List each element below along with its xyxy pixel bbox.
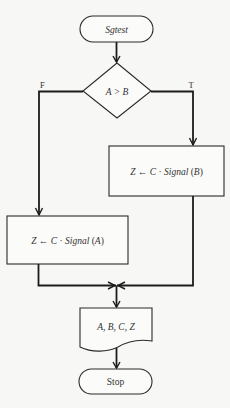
edge-merge-output — [113, 286, 120, 308]
true-branch-label: T — [188, 80, 194, 90]
edge-output-stop — [113, 348, 120, 368]
process-true-label: Z ← C · Signal (B) — [130, 167, 203, 178]
output-document: A, B, C, Z — [80, 308, 152, 351]
edge-start-decision — [113, 42, 120, 62]
start-label: Sgtest — [105, 25, 128, 35]
false-branch-label: F — [40, 80, 45, 90]
process-false-label: Z ← C · Signal (A) — [31, 236, 104, 247]
edge-decision-false — [36, 92, 84, 216]
edge-decision-true — [151, 92, 197, 146]
decision-diamond: A > B — [83, 63, 151, 118]
stop-terminal: Stop — [79, 369, 152, 394]
output-label: A, B, C, Z — [96, 322, 135, 332]
stop-label: Stop — [107, 377, 125, 387]
start-terminal: Sgtest — [80, 16, 153, 42]
edge-process-false-merge — [39, 264, 117, 289]
process-false-box: Z ← C · Signal (A) — [7, 216, 128, 264]
flowchart: Sgtest A > B F T Z ← C · Signal (B) Z ← … — [0, 0, 230, 408]
process-true-box: Z ← C · Signal (B) — [109, 146, 224, 196]
decision-label: A > B — [105, 87, 129, 97]
